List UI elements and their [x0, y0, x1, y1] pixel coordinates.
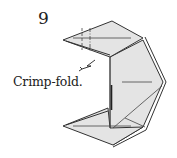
- crimp-arrow-icon: [79, 60, 95, 71]
- origami-model-drawing: [0, 0, 177, 158]
- origami-diagram: 9 Crimp-fold.: [0, 0, 177, 158]
